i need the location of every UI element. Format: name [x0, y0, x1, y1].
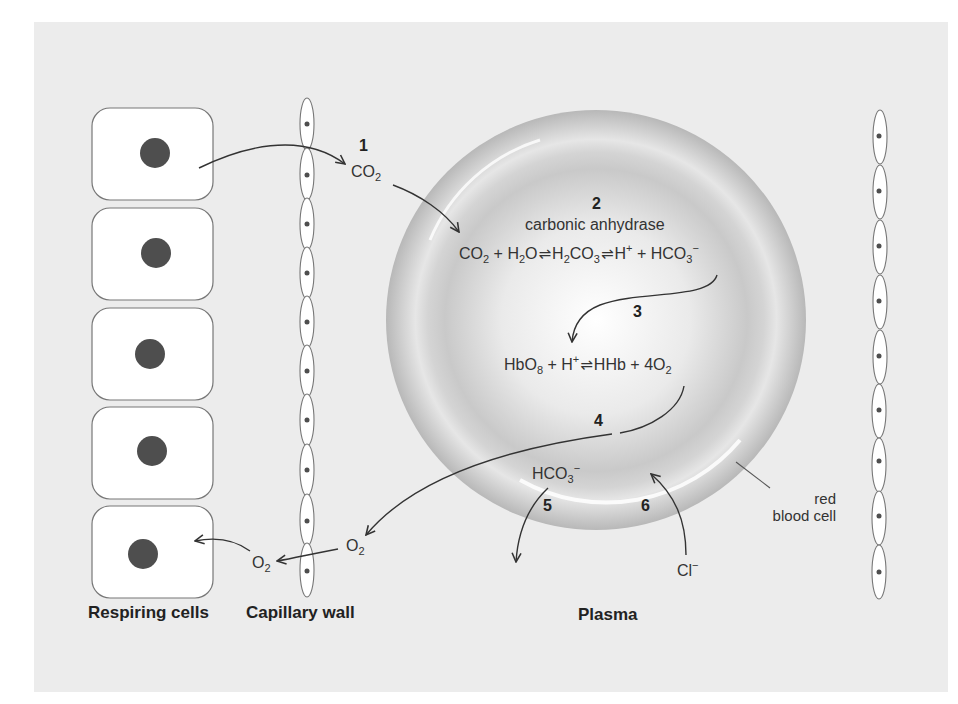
step-5-label: 5 [543, 498, 552, 514]
hco3-out-label: HCO3− [532, 466, 580, 482]
rbc-label-line-2: blood cell [752, 507, 836, 524]
capillary-wall-right [872, 110, 887, 599]
step-4-label: 4 [594, 413, 603, 429]
step-1-label: 1 [359, 138, 368, 154]
caption-plasma: Plasma [578, 606, 638, 623]
nucleus-icon [128, 539, 158, 569]
respiring-cell [92, 407, 213, 499]
rbc-label-line-1: red [752, 490, 836, 507]
o2-tissue-label: O2 [252, 555, 271, 571]
rbc-label: red blood cell [752, 490, 836, 524]
respiring-cell [92, 108, 213, 200]
step-2-label: 2 [592, 196, 601, 212]
diagram-canvas [0, 0, 958, 704]
co2-plasma-label: CO2 [351, 164, 381, 180]
nucleus-icon [141, 238, 171, 268]
equilibrium-arrow-icon: ⇌ [580, 357, 593, 372]
nucleus-icon [135, 339, 165, 369]
arrow-1-co2-to-plasma [199, 145, 345, 168]
respiring-cell [92, 208, 213, 300]
step-6-label: 6 [641, 498, 650, 514]
equation-hemoglobin: HbO8 + H+⇌HHb + 4O2 [504, 357, 672, 373]
caption-capillary-wall: Capillary wall [246, 604, 355, 621]
nucleus-icon [137, 436, 167, 466]
equation-carbonic-acid: CO2 + H2O⇌H2CO3⇌H+ + HCO3− [459, 246, 699, 262]
respiring-cells-column [92, 108, 213, 598]
enzyme-label: carbonic anhydrase [525, 217, 665, 233]
caption-respiring-cells: Respiring cells [88, 604, 209, 621]
respiring-cell [92, 308, 213, 400]
chloride-label: Cl− [677, 563, 699, 579]
respiring-cell [92, 506, 213, 598]
step-3-label: 3 [633, 304, 642, 320]
nucleus-icon [140, 138, 170, 168]
equilibrium-arrow-icon: ⇌ [601, 246, 614, 261]
equilibrium-arrow-icon: ⇌ [539, 246, 552, 261]
capillary-wall-left [300, 98, 314, 597]
rbc-label-leader [736, 462, 770, 488]
o2-plasma-label: O2 [346, 538, 365, 554]
